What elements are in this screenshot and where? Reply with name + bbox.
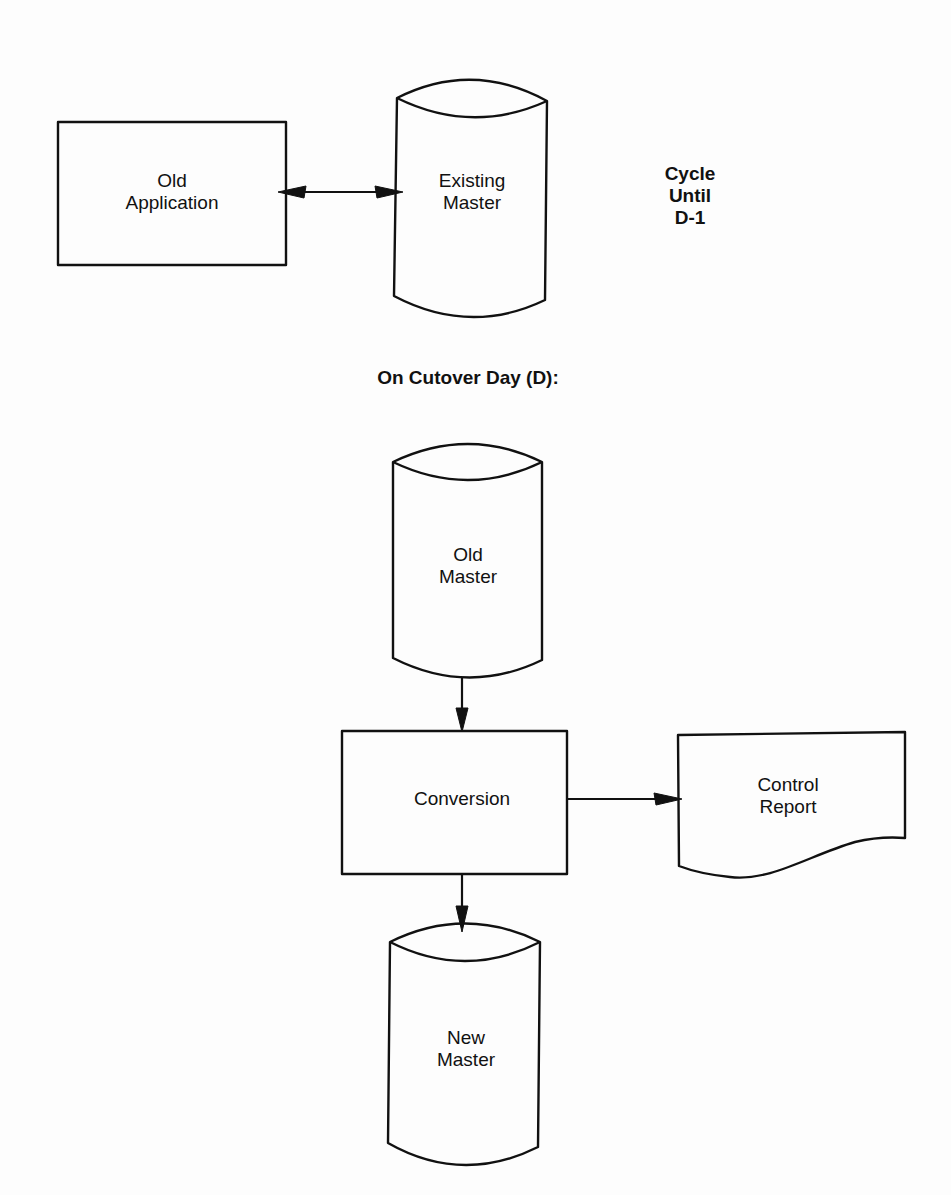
control-report-label: Control Report (757, 774, 818, 818)
bidirectional-arrow (278, 186, 403, 198)
arrowhead-right-icon (375, 186, 403, 198)
old-application-label: Old Application (126, 170, 219, 214)
arrowhead-down-icon (456, 708, 468, 732)
arrow-old-master-to-conversion (456, 678, 468, 732)
section-heading: On Cutover Day (D): (377, 367, 559, 389)
conversion-label: Conversion (414, 788, 510, 810)
arrowhead-down-icon (456, 906, 468, 932)
new-master-label: New Master (437, 1027, 495, 1071)
old-master-label: Old Master (439, 544, 497, 588)
existing-master-label: Existing Master (439, 170, 506, 214)
arrow-conversion-to-control-report (567, 793, 682, 805)
cycle-until-note: Cycle Until D-1 (665, 163, 716, 229)
arrowhead-left-icon (278, 186, 306, 198)
